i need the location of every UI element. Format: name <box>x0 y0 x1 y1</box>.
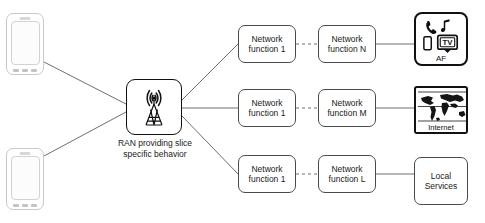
nf-label-line-1: Network <box>331 98 362 108</box>
network-function-n: Network function N <box>318 25 376 63</box>
local-services-line-1: Local <box>431 171 451 182</box>
ran-node <box>126 79 182 135</box>
mobile-device-icon <box>424 37 431 50</box>
nf-label-line-2: function M <box>327 108 366 118</box>
world-map-svg <box>418 90 468 123</box>
network-function-m: Network function M <box>318 89 376 127</box>
nf-label-line-1: Network <box>251 98 282 108</box>
local-services-line-2: Services <box>425 181 458 192</box>
nf-label-line-1: Network <box>331 164 362 174</box>
network-slice-diagram: RAN providing slice specific behavior Ne… <box>0 0 485 223</box>
smartphone-bottom <box>6 148 44 210</box>
af-endpoint: TV AF <box>414 12 468 66</box>
ran-caption-line-1: RAN providing slice <box>118 138 192 148</box>
nf-label-line-2: function 1 <box>249 44 286 54</box>
nf-label-line-1: Network <box>331 34 362 44</box>
internet-label: Internet <box>416 123 466 132</box>
internet-endpoint: Internet <box>414 86 468 134</box>
network-function-l: Network function L <box>318 155 376 193</box>
nf-label-line-1: Network <box>251 164 282 174</box>
nf-label-line-2: function N <box>328 44 366 54</box>
phone-speaker-icon <box>20 17 31 20</box>
phone-screen <box>11 156 40 200</box>
ran-caption: RAN providing slice specific behavior <box>96 138 214 159</box>
nf-label-line-1: Network <box>251 34 282 44</box>
edge-phone-top-to-ran <box>44 62 126 104</box>
phone-screen <box>11 21 40 65</box>
phone-buttons-icon <box>13 69 37 72</box>
phone-speaker-icon <box>20 152 31 155</box>
music-note-icon <box>441 19 450 32</box>
cell-tower-antenna-icon <box>130 84 178 130</box>
phone-buttons-icon <box>13 204 37 207</box>
nf-label-line-2: function L <box>329 174 366 184</box>
world-map-icon <box>418 90 464 123</box>
telephone-handset-icon <box>426 21 436 34</box>
edge-ran-to-nf-top <box>182 44 238 100</box>
network-function-1-middle: Network function 1 <box>238 89 296 127</box>
local-services-endpoint: Local Services <box>414 157 468 205</box>
nf-label-line-2: function 1 <box>249 174 286 184</box>
smartphone-top <box>6 13 44 75</box>
ran-caption-line-2: specific behavior <box>123 149 186 159</box>
nf-label-line-2: function 1 <box>249 108 286 118</box>
network-function-1-bottom: Network function 1 <box>238 155 296 193</box>
af-label: AF <box>416 54 466 63</box>
tv-screen-text: TV <box>443 38 454 47</box>
network-function-1-top: Network function 1 <box>238 25 296 63</box>
